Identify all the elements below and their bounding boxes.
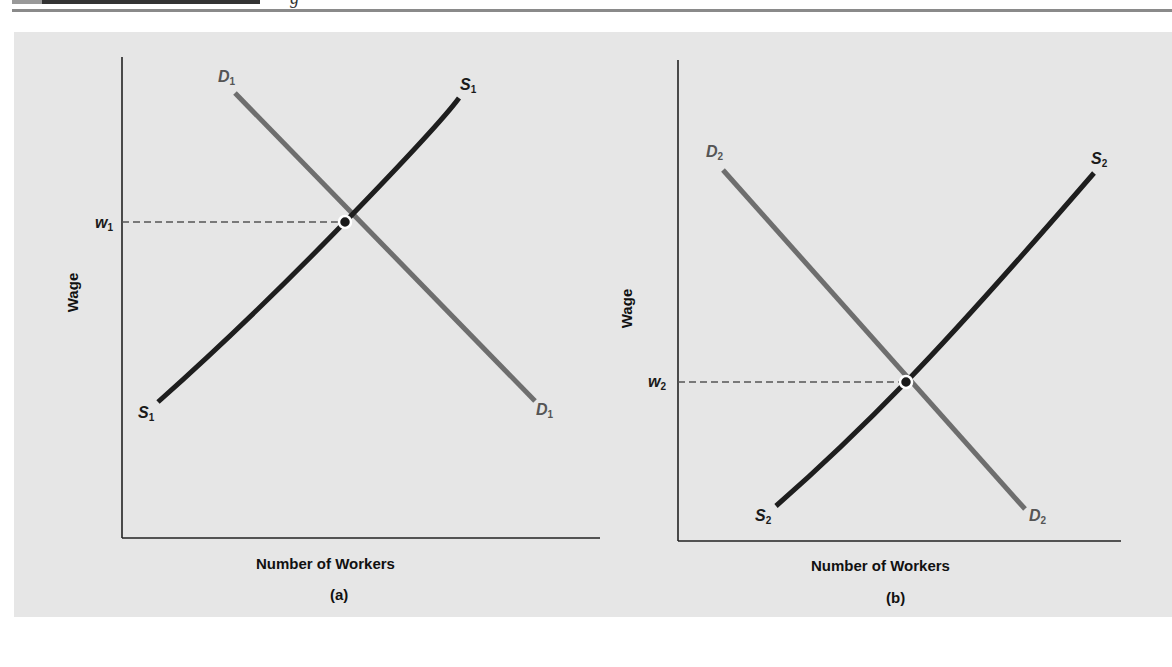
panel-a-supply-label-bottom: S1	[138, 404, 154, 423]
panel-a-demand-curve	[235, 93, 535, 401]
panel-b-supply-subscript-bottom: 2	[766, 515, 772, 526]
panel-a-axes	[122, 57, 600, 538]
panel-b-x-axis-label: Number of Workers	[811, 557, 950, 574]
panel-b-demand-label-top: D2	[706, 143, 723, 162]
panel-b-wage-subscript: 2	[660, 381, 666, 392]
panel-b-demand-symbol-top: D	[706, 143, 718, 160]
panel-a-demand-label-top: D1	[218, 68, 235, 87]
panel-a-demand-symbol-bottom: D	[536, 401, 548, 418]
panel-b-supply-label-bottom: S2	[755, 507, 771, 526]
figure-canvas	[0, 0, 1172, 667]
panel-b-axes	[678, 60, 1121, 541]
panel-a-supply-symbol-top: S	[460, 76, 471, 93]
panel-b-supply-symbol-top: S	[1091, 150, 1102, 167]
panel-b-demand-subscript-bottom: 2	[1041, 515, 1047, 526]
panel-a-demand-label-bottom: D1	[536, 401, 553, 420]
panel-b-supply-label-top: S2	[1091, 150, 1107, 169]
panel-a-wage-symbol: w	[95, 214, 107, 231]
panel-b-wage-symbol: w	[648, 373, 660, 390]
panel-b-demand-label-bottom: D2	[1029, 507, 1046, 526]
panel-b-caption: (b)	[886, 589, 905, 606]
panel-b-demand-subscript-top: 2	[718, 151, 724, 162]
panel-b-wage-label: w2	[648, 373, 666, 392]
panel-a-supply-label-top: S1	[460, 76, 476, 95]
panel-a-supply-subscript-top: 1	[471, 84, 477, 95]
panel-b-equilibrium-point	[900, 376, 912, 388]
panel-a-demand-subscript-top: 1	[230, 76, 236, 87]
panel-a-wage-subscript: 1	[107, 222, 113, 233]
panel-b-demand-symbol-bottom: D	[1029, 507, 1041, 524]
panel-b-supply-symbol-bottom: S	[755, 507, 766, 524]
panel-a-demand-symbol-top: D	[218, 68, 230, 85]
panel-a-wage-label: w1	[95, 214, 113, 233]
panel-a-supply-curve	[158, 98, 459, 402]
panel-b-y-axis-label: Wage	[618, 289, 635, 328]
panel-a-x-axis-label: Number of Workers	[256, 555, 395, 572]
panel-b-demand-curve	[723, 170, 1025, 509]
panel-a-equilibrium-point	[339, 216, 351, 228]
panel-b-supply-curve	[776, 173, 1094, 506]
panel-a-demand-subscript-bottom: 1	[548, 409, 554, 420]
panel-b-supply-subscript-top: 2	[1102, 158, 1108, 169]
panel-a-y-axis-label: Wage	[64, 273, 81, 312]
panel-a-supply-subscript-bottom: 1	[149, 412, 155, 423]
panel-a-supply-symbol-bottom: S	[138, 404, 149, 421]
panel-a-caption: (a)	[330, 586, 348, 603]
